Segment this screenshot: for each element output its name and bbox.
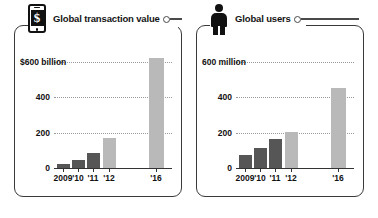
dollar-glyph: $ <box>34 11 41 24</box>
y-axis-tick-label: $600 billion <box>20 57 50 66</box>
x-axis-tick <box>109 169 110 172</box>
y-axis-tick-label: 400 <box>202 93 232 102</box>
bar-chart-transaction-value: 0200400$600 billion2009'10'11'12'16 <box>14 25 182 197</box>
x-axis-line <box>54 168 172 169</box>
infographic-root: $ Global transaction value 0200400$600 b… <box>0 0 378 218</box>
x-axis-label: '12 <box>95 174 123 183</box>
title-connector <box>163 16 182 23</box>
x-axis-label: '16 <box>142 174 170 183</box>
connector-line <box>170 18 182 20</box>
bar-12 <box>103 138 116 168</box>
y-axis-tick-label: 200 <box>20 128 50 137</box>
bar-11 <box>269 139 282 168</box>
connector-dot <box>294 16 301 23</box>
x-axis-tick <box>245 169 246 172</box>
x-axis-label: '12 <box>277 174 305 183</box>
x-axis-tick <box>275 169 276 172</box>
y-axis-tick-label: 0 <box>202 164 232 173</box>
bar-11 <box>87 153 100 168</box>
x-axis-label: '16 <box>324 174 352 183</box>
panel-transaction-value: $ Global transaction value 0200400$600 b… <box>14 25 182 197</box>
bar-12 <box>285 132 298 168</box>
x-axis-tick <box>78 169 79 172</box>
bar-2009 <box>239 155 252 168</box>
y-axis-tick-label: 0 <box>20 164 50 173</box>
bar-16 <box>331 88 346 168</box>
bar-10 <box>72 160 85 168</box>
bar-chart-global-users: 0200400600 million2009'10'11'12'16 <box>196 25 364 197</box>
x-axis-tick <box>260 169 261 172</box>
connector-dot <box>163 16 170 23</box>
panel-global-users: Global users 0200400600 million2009'10'1… <box>196 25 364 197</box>
x-axis-tick <box>291 169 292 172</box>
x-axis-tick <box>63 169 64 172</box>
x-axis-tick <box>338 169 339 172</box>
panel-title: Global transaction value <box>53 14 160 25</box>
bar-16 <box>149 58 164 168</box>
x-axis-tick <box>156 169 157 172</box>
panel-title: Global users <box>235 14 291 25</box>
title-connector <box>294 16 359 23</box>
y-axis-tick-label: 200 <box>202 128 232 137</box>
connector-line <box>301 18 359 20</box>
gridline <box>236 62 354 63</box>
bar-10 <box>254 148 267 168</box>
x-axis-line <box>236 168 354 169</box>
y-axis-tick-label: 600 million <box>202 57 232 66</box>
x-axis-tick <box>93 169 94 172</box>
y-axis-tick-label: 400 <box>20 93 50 102</box>
